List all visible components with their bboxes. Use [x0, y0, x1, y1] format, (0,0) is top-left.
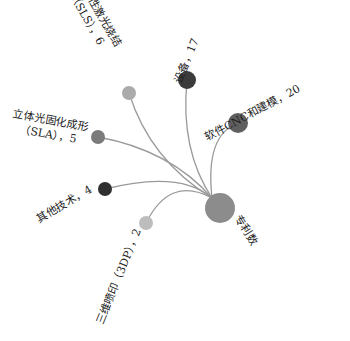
- node-label: 设备，17: [171, 36, 202, 85]
- node-label-line: 设备，17: [171, 36, 202, 85]
- root-label: 专利数: [232, 212, 261, 247]
- tree-node[interactable]: [91, 130, 105, 144]
- node-label-line: 软件CNC和建模，20: [202, 81, 303, 143]
- edge-line: [105, 181, 212, 198]
- node-label-line: 其他技术，4: [34, 183, 94, 225]
- node-label: 三维喷印（3DP），2: [94, 227, 144, 327]
- edge-line: [146, 191, 212, 223]
- node-label: 选择性激光烧结（SLS），6: [62, 0, 125, 56]
- labels-layer: 选择性激光烧结（SLS），6设备，17软件CNC和建模，20立体光固化成形（SL…: [9, 0, 302, 327]
- node-label: 立体光固化成形（SLA），5: [9, 106, 90, 147]
- tree-node[interactable]: [98, 182, 112, 196]
- node-label: 其他技术，4: [34, 183, 94, 225]
- radial-tree-chart: 选择性激光烧结（SLS），6设备，17软件CNC和建模，20立体光固化成形（SL…: [0, 0, 350, 341]
- node-label: 软件CNC和建模，20: [202, 81, 303, 143]
- node-label-line: 三维喷印（3DP），2: [94, 227, 144, 327]
- root-node[interactable]: [205, 193, 235, 223]
- nodes-layer: [91, 71, 248, 230]
- tree-node[interactable]: [122, 86, 136, 100]
- tree-node[interactable]: [139, 216, 153, 230]
